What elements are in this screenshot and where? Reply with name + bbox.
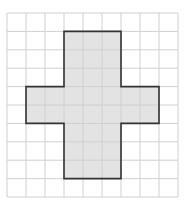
grid-diagram [0,0,189,206]
